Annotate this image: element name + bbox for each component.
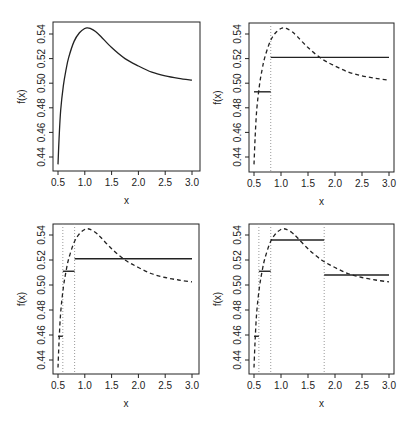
x-tick-label: 1.0 <box>78 380 92 391</box>
x-tick-label: 0.5 <box>247 380 261 391</box>
x-tick-label: 1.5 <box>105 380 119 391</box>
density-curve <box>58 28 192 165</box>
y-tick-label: 0.48 <box>36 300 47 320</box>
panel-bottom-left: 0.51.01.52.02.53.00.440.460.480.500.520.… <box>16 224 199 409</box>
y-tick-label: 0.54 <box>232 225 243 245</box>
x-tick-label: 2.0 <box>131 380 145 391</box>
y-tick-label: 0.54 <box>36 24 47 44</box>
x-tick-label: 1.0 <box>78 177 92 188</box>
x-tick-label: 3.0 <box>185 380 199 391</box>
x-tick-label: 3.0 <box>185 177 199 188</box>
panel-top-right: 0.51.01.52.02.53.00.440.460.480.500.520.… <box>212 23 396 207</box>
y-tick-label: 0.54 <box>232 24 243 44</box>
y-tick-label: 0.52 <box>36 48 47 68</box>
y-tick-label: 0.44 <box>36 350 47 370</box>
y-tick-label: 0.50 <box>232 275 243 295</box>
x-tick-label: 2.5 <box>158 380 172 391</box>
y-tick-label: 0.46 <box>36 325 47 345</box>
x-axis-label: x <box>319 398 324 409</box>
y-tick-label: 0.52 <box>36 250 47 270</box>
x-tick-label: 2.5 <box>355 178 369 189</box>
y-axis-label: f(x) <box>16 89 27 103</box>
figure-2x2-step-approximation: 0.51.01.52.02.53.00.440.460.480.500.520.… <box>0 0 415 424</box>
y-tick-label: 0.48 <box>232 300 243 320</box>
x-axis-label: x <box>319 196 324 207</box>
y-tick-label: 0.44 <box>36 147 47 167</box>
y-tick-label: 0.50 <box>232 73 243 93</box>
x-tick-label: 0.5 <box>247 178 261 189</box>
y-tick-label: 0.54 <box>36 225 47 245</box>
y-tick-label: 0.48 <box>36 98 47 118</box>
plots-canvas: 0.51.01.52.02.53.00.440.460.480.500.520.… <box>0 0 415 424</box>
x-tick-label: 1.5 <box>301 380 315 391</box>
y-tick-label: 0.52 <box>232 250 243 270</box>
y-tick-label: 0.50 <box>36 73 47 93</box>
x-axis-label: x <box>124 195 129 206</box>
panel-top-left: 0.51.01.52.02.53.00.440.460.480.500.520.… <box>16 22 200 206</box>
x-tick-label: 2.5 <box>355 380 369 391</box>
y-tick-label: 0.46 <box>232 325 243 345</box>
density-curve <box>58 229 192 368</box>
y-tick-label: 0.52 <box>232 48 243 68</box>
x-tick-label: 3.0 <box>382 380 396 391</box>
x-tick-label: 2.0 <box>328 380 342 391</box>
density-curve <box>254 28 389 165</box>
density-curve <box>254 229 389 368</box>
x-axis-label: x <box>124 398 129 409</box>
x-tick-label: 1.0 <box>274 380 288 391</box>
x-tick-label: 1.5 <box>301 178 315 189</box>
x-tick-label: 3.0 <box>382 178 396 189</box>
y-tick-label: 0.46 <box>232 122 243 142</box>
x-tick-label: 1.0 <box>274 178 288 189</box>
y-tick-label: 0.44 <box>232 147 243 167</box>
y-axis-label: f(x) <box>212 292 223 306</box>
y-tick-label: 0.48 <box>232 98 243 118</box>
panel-bottom-right: 0.51.01.52.02.53.00.440.460.480.500.520.… <box>212 224 396 409</box>
y-axis-label: f(x) <box>212 90 223 104</box>
x-tick-label: 2.5 <box>158 177 172 188</box>
x-tick-label: 2.0 <box>131 177 145 188</box>
y-tick-label: 0.46 <box>36 122 47 142</box>
x-tick-label: 0.5 <box>51 380 65 391</box>
y-tick-label: 0.50 <box>36 275 47 295</box>
x-tick-label: 1.5 <box>105 177 119 188</box>
plot-frame <box>53 22 200 171</box>
x-tick-label: 0.5 <box>51 177 65 188</box>
y-tick-label: 0.44 <box>232 350 243 370</box>
y-axis-label: f(x) <box>16 292 27 306</box>
x-tick-label: 2.0 <box>328 178 342 189</box>
